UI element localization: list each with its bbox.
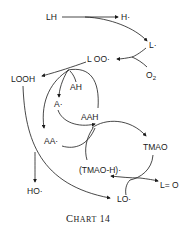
node-lh: LH xyxy=(46,12,57,22)
node-aah: AAH xyxy=(81,112,98,122)
line-tmaoh-to-aah xyxy=(86,128,93,160)
node-tmao: TMAO xyxy=(143,142,168,152)
arc-tmao-to-lo xyxy=(126,155,153,195)
arrow-aa-to-aah xyxy=(62,128,95,147)
node-ah: AH xyxy=(70,82,82,92)
arrow-to-tmaoh xyxy=(111,176,140,178)
node-lo-radical: LO· xyxy=(117,194,131,204)
node-l-eq-o: L= O xyxy=(160,180,179,190)
arrow-lh-to-l xyxy=(85,17,147,41)
arrow-l-o2-to-loo xyxy=(132,48,147,67)
node-l-radical: L· xyxy=(149,40,157,50)
arrow-to-loo xyxy=(117,57,132,59)
node-ho-radical: HO· xyxy=(27,186,43,196)
node-looh: LOOH xyxy=(11,74,35,84)
arrow-loo-to-looh xyxy=(42,62,86,76)
node-aa-radical: AA· xyxy=(44,136,58,146)
node-o2: O2 xyxy=(146,70,157,81)
node-h-radical: H· xyxy=(121,12,130,22)
arrow-looh-to-lo xyxy=(23,86,110,198)
chart-caption: CHART 14 xyxy=(66,213,110,224)
arrow-aah-to-tmao xyxy=(92,121,146,136)
node-tmao-h-radical: (TMAO-H)· xyxy=(79,165,121,175)
line-ah xyxy=(70,71,76,82)
arrow-to-l-eq-o xyxy=(140,178,158,181)
node-a-radical: A· xyxy=(54,99,63,109)
node-loo-radical: L OO· xyxy=(87,54,110,64)
reaction-scheme: LH H· L· L OO· O2 LOOH AH A· AAH AA· TMA… xyxy=(0,0,190,232)
